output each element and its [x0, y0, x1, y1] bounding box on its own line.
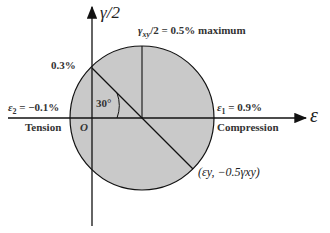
lower-point-label: (εy, −0.5γxy) [198, 165, 260, 180]
horizontal-axis-label: ε [310, 104, 318, 127]
eps2-label: ε2 = −0.1% [8, 101, 59, 116]
compression-label: Compression [217, 121, 279, 133]
angle-label: 30° [96, 97, 111, 109]
max-shear-label: γxy/2 = 0.5% maximum [138, 24, 246, 39]
eps1-label: ε1 = 0.9% [217, 101, 262, 116]
vertical-axis-label: γ/2 [100, 3, 120, 23]
upper-point-label: 0.3% [51, 59, 76, 71]
tension-label: Tension [25, 121, 61, 133]
origin-label: O [80, 121, 88, 133]
